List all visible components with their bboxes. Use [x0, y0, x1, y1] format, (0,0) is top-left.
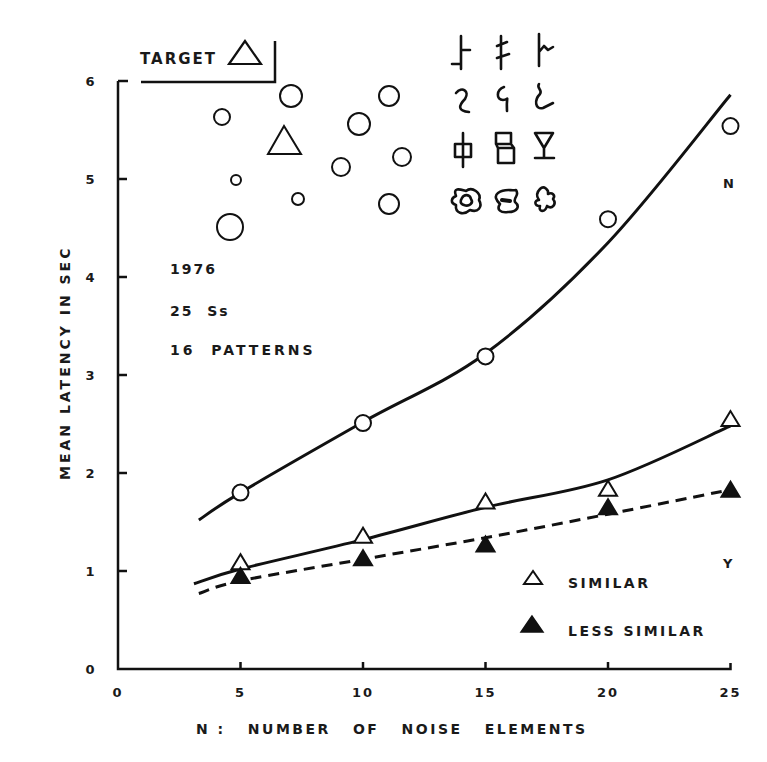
open-triangle-marker [722, 411, 740, 426]
distractor-circle-icon [214, 109, 230, 125]
legend-label-similar: SIMILAR [568, 575, 650, 591]
s-glyph-icon [456, 90, 469, 112]
y-tick-label: 5 [85, 172, 94, 187]
y-axis-title: MEAN LATENCY IN SEC [57, 246, 73, 480]
distractor-circle-icon [292, 193, 304, 205]
target-example: TARGET [140, 41, 275, 82]
series-line [199, 95, 731, 520]
x-tick-label: 10 [352, 685, 374, 700]
y-curve-label: Y [722, 556, 733, 571]
open-circle-marker [233, 485, 249, 501]
stick-glyph-icon [452, 36, 470, 69]
y-tick-label: 1 [85, 564, 94, 579]
target-triangle-in-display-icon [268, 126, 301, 154]
box-stick-glyph-icon [455, 133, 471, 167]
open-circle-marker [600, 211, 616, 227]
distractor-circle-icon [393, 148, 411, 166]
open-triangle-icon [524, 571, 542, 584]
double-box-glyph-icon [496, 133, 514, 163]
distractor-circle-icon [379, 86, 399, 106]
legend-item-similar: SIMILAR [524, 571, 650, 591]
filled-triangle-marker [477, 537, 495, 552]
blob-glyph-icon [452, 189, 481, 213]
distractor-circle-icon [231, 175, 241, 185]
y-tick-label: 0 [85, 662, 94, 677]
study-info: 1976 25 Ss 16 PATTERNS [170, 261, 316, 358]
x-tick-label: 15 [474, 685, 496, 700]
s-glyph-icon [498, 87, 507, 111]
x-axis-title: N : NUMBER OF NOISE ELEMENTS [196, 721, 588, 737]
filled-triangle-icon [521, 616, 543, 632]
subjects-label: 25 Ss [170, 303, 230, 319]
open-triangle-marker [477, 493, 495, 508]
distractor-circle-icon [217, 214, 243, 240]
blob-glyph-icon [496, 190, 518, 212]
chart-canvas: TARGET [0, 0, 767, 762]
x-tick-label: 25 [719, 685, 741, 700]
x-tick-label: 5 [235, 685, 246, 700]
s-glyph-icon [536, 84, 553, 108]
goblet-glyph-icon [535, 133, 554, 158]
open-circle-marker [355, 415, 371, 431]
target-label: TARGET [140, 50, 217, 68]
year-label: 1976 [170, 261, 217, 277]
target-triangle-icon [229, 41, 261, 64]
tick-labels: 01234560510152025 [85, 74, 741, 700]
y-tick-label: 6 [85, 74, 94, 89]
y-tick-label: 3 [85, 368, 94, 383]
distractor-circle-icon [332, 158, 350, 176]
legend: SIMILAR LESS SIMILAR [521, 571, 706, 639]
y-tick-label: 4 [85, 270, 94, 285]
n-curve-label: N [723, 176, 734, 191]
y-tick-label: 2 [85, 466, 94, 481]
stick-glyph-icon [497, 36, 509, 69]
stick-glyph-icon [539, 34, 553, 66]
stimulus-display [214, 85, 411, 240]
distractor-circle-icon [379, 194, 399, 214]
series-line [199, 490, 731, 594]
legend-label-less-similar: LESS SIMILAR [568, 623, 706, 639]
patterns-label: 16 PATTERNS [170, 342, 316, 358]
filled-triangle-marker [599, 499, 617, 514]
legend-item-less-similar: LESS SIMILAR [521, 616, 706, 639]
filled-triangle-marker [354, 550, 372, 565]
x-tick-label: 20 [597, 685, 619, 700]
x-tick-label: 0 [112, 685, 123, 700]
blob-glyph-icon [535, 188, 554, 211]
distractor-circle-icon [348, 113, 370, 135]
filled-triangle-marker [722, 482, 740, 497]
open-circle-marker [478, 348, 494, 364]
open-triangle-marker [354, 528, 372, 543]
distractor-circle-icon [280, 85, 302, 107]
open-circle-marker [723, 118, 739, 134]
pattern-glyphs [452, 34, 555, 213]
